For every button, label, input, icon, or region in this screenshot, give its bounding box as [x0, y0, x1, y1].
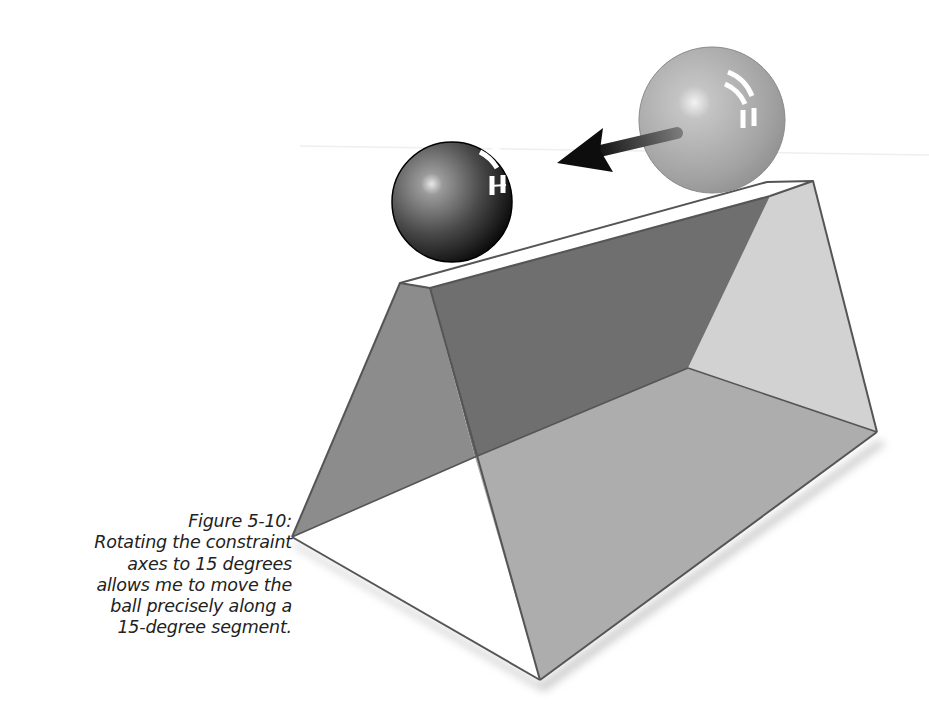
caption-line: allows me to move the: [0, 575, 292, 596]
figure-caption: Figure 5-10: Rotating the constraint axe…: [0, 511, 292, 639]
ball-light: [639, 47, 785, 193]
figure-label: Figure 5-10:: [0, 511, 292, 532]
ball-dark: [392, 140, 512, 262]
caption-line: ball precisely along a: [0, 596, 292, 617]
caption-line: axes to 15 degrees: [0, 554, 292, 575]
caption-line: 15-degree segment.: [0, 617, 292, 638]
caption-line: Rotating the constraint: [0, 532, 292, 553]
